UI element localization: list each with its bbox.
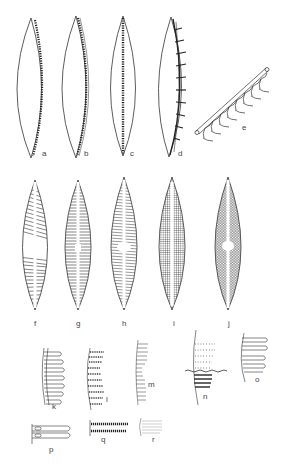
label-j: j xyxy=(228,320,230,328)
panel-k xyxy=(42,348,64,405)
label-f: f xyxy=(34,320,36,328)
label-k: k xyxy=(52,403,56,411)
panel-q xyxy=(90,420,128,436)
label-d: d xyxy=(178,150,182,158)
label-e: e xyxy=(242,124,246,132)
panel-b xyxy=(62,16,89,158)
label-l: l xyxy=(106,396,108,404)
label-o: o xyxy=(255,376,259,384)
panel-h xyxy=(96,177,152,310)
figure-drawing xyxy=(0,0,285,466)
label-r: r xyxy=(152,436,155,444)
panel-l xyxy=(87,348,104,410)
panel-a xyxy=(17,18,42,158)
label-g: g xyxy=(76,320,80,328)
label-m: m xyxy=(148,381,155,389)
panel-j xyxy=(215,177,241,310)
panel-g xyxy=(50,180,106,310)
panel-d xyxy=(158,17,186,157)
panel-e xyxy=(195,68,269,142)
label-h: h xyxy=(122,320,126,328)
label-n: n xyxy=(203,393,207,401)
panel-r xyxy=(140,418,163,436)
label-q: q xyxy=(101,436,105,444)
panel-p xyxy=(32,424,70,444)
label-c: c xyxy=(130,150,134,158)
label-i: i xyxy=(173,320,175,328)
label-a: a xyxy=(42,150,46,158)
panel-m xyxy=(136,340,148,405)
label-p: p xyxy=(49,446,53,454)
panel-i xyxy=(159,177,185,310)
diatom-figure-plate: a b c d e f g h i j k l m n o p q r xyxy=(0,0,285,466)
panel-f xyxy=(10,180,60,310)
label-b: b xyxy=(84,150,88,158)
panel-c xyxy=(111,16,136,156)
